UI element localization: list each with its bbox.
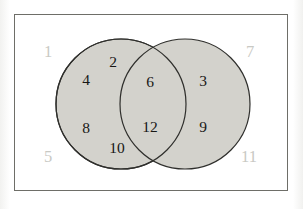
- region-label-intersection: 6: [146, 74, 154, 90]
- region-label-left-only: 8: [82, 120, 90, 136]
- right-set-circle: [120, 39, 250, 169]
- region-label-outside: 1: [44, 44, 52, 61]
- region-label-outside: 5: [44, 149, 52, 166]
- region-label-right-only: 3: [199, 73, 207, 89]
- region-label-left-only: 2: [109, 54, 117, 70]
- region-label-intersection: 12: [142, 119, 158, 135]
- region-label-outside: 11: [241, 149, 257, 166]
- region-label-left-only: 10: [109, 140, 125, 156]
- venn-diagram-figure: 4 2 8 10 6 12 3 9 1 7 5 11: [0, 0, 303, 209]
- region-label-right-only: 9: [199, 119, 207, 135]
- region-label-outside: 7: [246, 44, 254, 61]
- region-label-left-only: 4: [82, 72, 90, 88]
